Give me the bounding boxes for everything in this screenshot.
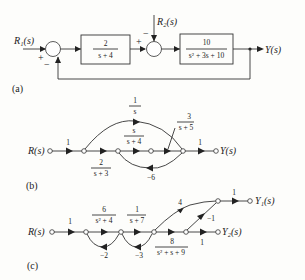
node-5 bbox=[216, 199, 221, 204]
node-4 bbox=[181, 149, 186, 154]
diagram-b: R(s) 1 2 s + 3 s s + 4 3 s + 5 1 s −6 bbox=[26, 96, 237, 192]
output-y-label: Y(s) bbox=[220, 145, 237, 157]
gain-g3-den: s + 5 bbox=[179, 123, 194, 132]
arrow-icon bbox=[134, 244, 141, 251]
input-r1-label: R₁(s) bbox=[13, 35, 35, 47]
gain-out: 1 bbox=[198, 138, 202, 147]
diagram-c: R(s) 1 6 s² + 4 −2 1 s + 7 −3 8 s² + s +… bbox=[27, 188, 275, 272]
arrow-icon bbox=[68, 229, 75, 236]
arrow-icon bbox=[66, 148, 73, 155]
arrow-icon bbox=[232, 198, 239, 205]
node-2 bbox=[119, 230, 124, 235]
gain-fb2: −3 bbox=[135, 251, 143, 260]
gain-top-den: s bbox=[134, 107, 137, 116]
branch-fb2 bbox=[122, 234, 152, 247]
arrow-icon bbox=[133, 119, 140, 126]
node-3 bbox=[152, 230, 157, 235]
gain-g1-num: 2 bbox=[99, 158, 103, 167]
arrow-icon bbox=[197, 213, 205, 220]
gain-g2-den: s + 7 bbox=[130, 216, 145, 225]
caption-b: (b) bbox=[26, 180, 38, 192]
gain-g1-den: s + 3 bbox=[94, 169, 109, 178]
arrow-icon bbox=[168, 229, 175, 236]
summing-junction-1 bbox=[46, 42, 61, 57]
gain-mid-den: s + 4 bbox=[127, 137, 142, 146]
arrow-icon bbox=[100, 148, 107, 155]
sum2-minus-sign: − bbox=[143, 28, 149, 39]
node-y1 bbox=[248, 199, 253, 204]
gain-g3-den: s² + s + 9 bbox=[157, 248, 185, 257]
gain-up: 4 bbox=[178, 198, 182, 207]
node-r bbox=[50, 230, 55, 235]
input-r2-label: R₂(s) bbox=[156, 16, 178, 28]
gain-mid-num: s bbox=[133, 126, 136, 135]
output-y2-label: Y₂(s) bbox=[222, 226, 242, 238]
node-4 bbox=[184, 230, 189, 235]
node-1 bbox=[82, 149, 87, 154]
arrow-icon bbox=[146, 165, 153, 172]
node-y2 bbox=[216, 230, 221, 235]
arrow-icon bbox=[100, 244, 107, 251]
gain-out2: 1 bbox=[200, 238, 204, 247]
block2-denominator: s² + 3s + 10 bbox=[189, 51, 225, 60]
node-2 bbox=[116, 149, 121, 154]
block1-denominator: s + 4 bbox=[98, 51, 113, 60]
block-diagrams-figure: R₁(s) + − 2 s + 4 + R₂(s) − 10 s² + 3s +… bbox=[0, 0, 305, 280]
gain-g3-num: 8 bbox=[170, 237, 174, 246]
block1-numerator: 2 bbox=[104, 39, 108, 48]
arrow-icon bbox=[151, 35, 157, 42]
output-y1-label: Y₁(s) bbox=[255, 195, 275, 207]
arrow-icon bbox=[164, 148, 171, 155]
arrow-icon bbox=[257, 46, 264, 52]
gain-out1: 1 bbox=[232, 188, 236, 197]
gain-cross: −1 bbox=[207, 214, 215, 223]
gain-g1-num: 6 bbox=[102, 205, 106, 214]
branch-fb1 bbox=[87, 234, 119, 247]
node-y bbox=[214, 149, 219, 154]
diagram-a: R₁(s) + − 2 s + 4 + R₂(s) − 10 s² + 3s +… bbox=[12, 15, 282, 95]
summing-junction-2 bbox=[147, 42, 162, 57]
gain-fb1: −2 bbox=[100, 251, 108, 260]
arrow-icon bbox=[101, 229, 108, 236]
arrow-icon bbox=[198, 148, 205, 155]
gain-feedback: −6 bbox=[147, 173, 155, 182]
gain-top-num: 1 bbox=[133, 96, 137, 105]
node-r bbox=[48, 149, 53, 154]
sum1-minus-sign: − bbox=[44, 59, 50, 70]
arrow-icon bbox=[133, 148, 140, 155]
gain-g1-den: s² + 4 bbox=[96, 216, 113, 225]
arrow-icon bbox=[200, 229, 207, 236]
arrow-icon bbox=[177, 208, 185, 214]
caption-c: (c) bbox=[27, 260, 38, 272]
output-y-label: Y(s) bbox=[265, 44, 282, 56]
sum2-plus-sign: + bbox=[136, 36, 142, 47]
node-3 bbox=[149, 149, 154, 154]
caption-a: (a) bbox=[12, 83, 23, 95]
arrow-icon bbox=[55, 57, 61, 64]
gain-g2-num: 1 bbox=[135, 205, 139, 214]
block2-numerator: 10 bbox=[203, 38, 211, 47]
input-r-label: R(s) bbox=[27, 226, 45, 238]
arrow-icon bbox=[75, 46, 81, 52]
arrow-icon bbox=[134, 229, 141, 236]
gain-g3-num: 3 bbox=[187, 112, 191, 121]
arrow-icon bbox=[174, 46, 180, 52]
node-1 bbox=[84, 230, 89, 235]
gain-in: 1 bbox=[68, 217, 72, 226]
gain-in: 1 bbox=[66, 138, 70, 147]
input-r-label: R(s) bbox=[27, 145, 45, 157]
